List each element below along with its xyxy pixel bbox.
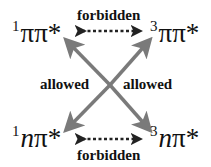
state-singlet-npi: 1nπ* [12, 125, 61, 152]
allowed-label-left: allowed [40, 77, 89, 92]
state-label: π* [34, 123, 61, 153]
state-triplet-pipi: 3ππ* [150, 20, 199, 47]
multiplicity-label: 1 [12, 123, 20, 139]
state-triplet-npi: 3nπ* [150, 125, 199, 152]
multiplicity-label: 3 [150, 123, 158, 139]
state-label: π* [172, 123, 199, 153]
diagram-canvas: 1ππ* 3ππ* 1nπ* 3nπ* forbidden forbidden … [0, 0, 211, 167]
multiplicity-label: 3 [150, 18, 158, 34]
forbidden-label-top: forbidden [77, 8, 140, 23]
state-label: ππ* [159, 18, 200, 48]
forbidden-label-bottom: forbidden [77, 148, 140, 163]
orbital-label: n [21, 123, 35, 153]
allowed-label-right: allowed [123, 77, 172, 92]
state-label: ππ* [21, 18, 62, 48]
orbital-label: n [159, 123, 173, 153]
multiplicity-label: 1 [12, 18, 20, 34]
state-singlet-pipi: 1ππ* [12, 20, 61, 47]
